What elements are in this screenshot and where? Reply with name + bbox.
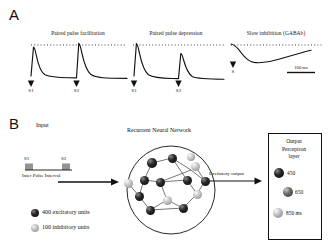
output-unit-650-label: 650 (295, 189, 303, 195)
network-node-excitatory (135, 192, 144, 201)
network-node-inhibitory (193, 190, 202, 199)
network-node-excitatory (168, 154, 177, 163)
output-box-title-line-1: Output (268, 138, 320, 146)
output-unit-850-label: 850 ms (286, 210, 302, 216)
network-node-inhibitory (187, 153, 195, 161)
output-unit-450-marker (274, 168, 284, 178)
output-box-title-line-2: Perceptron (268, 146, 320, 154)
excitatory-output-label: Excitatory output (209, 171, 244, 176)
network-node-inhibitory (191, 162, 200, 171)
network-node-excitatory (146, 206, 155, 215)
network-node-inhibitory (163, 196, 172, 205)
network-node-excitatory (156, 178, 165, 187)
output-unit-450-label: 450 (287, 170, 295, 176)
output-box-title-line-3: layer (268, 153, 320, 161)
network-node-inhibitory (124, 179, 133, 188)
figure-canvas: A Paired pulse facilitation S1 S2 Paired… (0, 0, 328, 247)
network-node-excitatory (179, 204, 188, 213)
excitatory-output-arrowhead (255, 178, 263, 185)
output-unit-850-marker (273, 208, 283, 218)
network-node-excitatory (147, 158, 157, 168)
network-node-excitatory (183, 176, 192, 185)
network-node-excitatory (201, 177, 211, 187)
network-node-excitatory (140, 176, 149, 185)
output-unit-650-marker (283, 187, 293, 197)
